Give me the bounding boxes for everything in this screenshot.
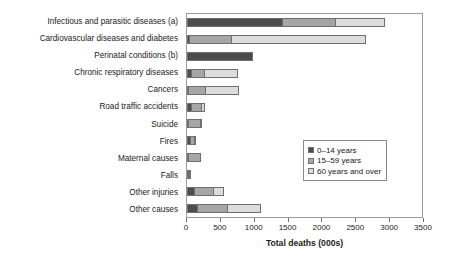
bar-segment[interactable] bbox=[204, 69, 238, 78]
bar-segment[interactable] bbox=[231, 35, 366, 44]
bar-segment[interactable] bbox=[200, 119, 202, 128]
stacked-bar[interactable] bbox=[187, 153, 201, 162]
category-label: Cardiovascular diseases and diabetes bbox=[40, 34, 178, 43]
stacked-bar[interactable] bbox=[187, 52, 253, 61]
bar-segment[interactable] bbox=[201, 103, 204, 112]
legend-item[interactable]: 15–59 years bbox=[308, 156, 381, 165]
category-label: Fires bbox=[160, 137, 178, 146]
stacked-bar[interactable] bbox=[187, 170, 191, 179]
bar-segment[interactable] bbox=[191, 69, 204, 78]
x-axis-tick bbox=[321, 218, 322, 222]
bar-row bbox=[187, 200, 422, 217]
bar-segment[interactable] bbox=[197, 204, 227, 213]
x-axis-tick bbox=[220, 218, 221, 222]
stacked-bar[interactable] bbox=[187, 69, 238, 78]
bar-segment[interactable] bbox=[335, 18, 384, 27]
bar-segment[interactable] bbox=[187, 18, 282, 27]
category-label: Infectious and parasitic diseases (a) bbox=[47, 17, 178, 26]
bar-row bbox=[187, 31, 422, 48]
category-label-row: Suicide bbox=[0, 115, 182, 132]
bar-segment[interactable] bbox=[227, 204, 262, 213]
stacked-bar[interactable] bbox=[187, 136, 196, 145]
stacked-bar[interactable] bbox=[187, 35, 366, 44]
x-axis-tick bbox=[423, 218, 424, 222]
legend-swatch-icon bbox=[308, 168, 314, 174]
category-axis-labels: Infectious and parasitic diseases (a)Car… bbox=[0, 13, 182, 218]
bar-row bbox=[187, 48, 422, 65]
stacked-bar[interactable] bbox=[187, 119, 202, 128]
category-label-row: Road traffic accidents bbox=[0, 98, 182, 115]
category-label: Road traffic accidents bbox=[99, 102, 178, 111]
legend-swatch-icon bbox=[308, 158, 314, 164]
category-label-row: Perinatal conditions (b) bbox=[0, 47, 182, 64]
stacked-bar[interactable] bbox=[187, 204, 261, 213]
category-label-row: Maternal causes bbox=[0, 150, 182, 167]
bar-segment[interactable] bbox=[191, 103, 201, 112]
legend-swatch-icon bbox=[308, 147, 314, 153]
x-axis-tick bbox=[288, 218, 289, 222]
x-axis-tick-label: 2500 bbox=[346, 223, 364, 232]
x-axis-tick bbox=[254, 218, 255, 222]
legend-label: 15–59 years bbox=[317, 156, 361, 165]
stacked-bar[interactable] bbox=[187, 86, 239, 95]
bar-segment[interactable] bbox=[189, 170, 191, 179]
category-label-row: Cardiovascular diseases and diabetes bbox=[0, 30, 182, 47]
x-axis-title: Total deaths (000s) bbox=[186, 238, 423, 248]
plot-area bbox=[186, 13, 423, 218]
bar-segment[interactable] bbox=[282, 18, 335, 27]
bar-row bbox=[187, 183, 422, 200]
bar-row bbox=[187, 99, 422, 116]
category-label-row: Falls bbox=[0, 167, 182, 184]
category-label: Other injuries bbox=[129, 188, 178, 197]
legend-item[interactable]: 0–14 years bbox=[308, 146, 381, 155]
stacked-bar[interactable] bbox=[187, 18, 385, 27]
bar-segment[interactable] bbox=[188, 119, 200, 128]
x-axis-tick-label: 0 bbox=[184, 223, 188, 232]
x-axis-tick-label: 1000 bbox=[245, 223, 263, 232]
category-label: Cancers bbox=[148, 85, 179, 94]
bars-container bbox=[187, 14, 422, 217]
stacked-bar-chart: Infectious and parasitic diseases (a)Car… bbox=[0, 0, 452, 265]
stacked-bar[interactable] bbox=[187, 187, 224, 196]
category-label: Perinatal conditions (b) bbox=[94, 51, 178, 60]
legend: 0–14 years15–59 years60 years and over bbox=[303, 140, 387, 181]
x-axis: 0500100015002000250030003500 bbox=[186, 218, 423, 219]
category-label-row: Cancers bbox=[0, 81, 182, 98]
legend-label: 60 years and over bbox=[317, 167, 381, 176]
x-axis-tick bbox=[355, 218, 356, 222]
legend-item[interactable]: 60 years and over bbox=[308, 167, 381, 176]
x-axis-tick-label: 3500 bbox=[414, 223, 432, 232]
bar-segment[interactable] bbox=[189, 35, 231, 44]
category-label: Chronic respiratory diseases bbox=[74, 68, 178, 77]
bar-segment[interactable] bbox=[213, 187, 225, 196]
category-label: Suicide bbox=[151, 120, 178, 129]
bar-segment[interactable] bbox=[194, 136, 196, 145]
bar-row bbox=[187, 116, 422, 133]
x-axis-tick-label: 500 bbox=[213, 223, 226, 232]
bar-segment[interactable] bbox=[188, 153, 201, 162]
x-axis-tick bbox=[186, 218, 187, 222]
legend-label: 0–14 years bbox=[317, 146, 357, 155]
category-label: Other causes bbox=[129, 205, 178, 214]
bar-row bbox=[187, 82, 422, 99]
category-label-row: Infectious and parasitic diseases (a) bbox=[0, 13, 182, 30]
x-axis-tick-label: 2000 bbox=[313, 223, 331, 232]
category-label-row: Chronic respiratory diseases bbox=[0, 64, 182, 81]
category-label: Maternal causes bbox=[118, 154, 178, 163]
category-label-row: Fires bbox=[0, 133, 182, 150]
bar-segment[interactable] bbox=[187, 52, 253, 61]
bar-segment[interactable] bbox=[187, 204, 197, 213]
bar-row bbox=[187, 14, 422, 31]
stacked-bar[interactable] bbox=[187, 103, 205, 112]
x-axis-tick-label: 3000 bbox=[380, 223, 398, 232]
bar-segment[interactable] bbox=[194, 187, 212, 196]
category-label-row: Other causes bbox=[0, 201, 182, 218]
category-label: Falls bbox=[161, 171, 178, 180]
bar-segment[interactable] bbox=[188, 86, 205, 95]
bar-segment[interactable] bbox=[187, 187, 194, 196]
bar-row bbox=[187, 65, 422, 82]
category-label-row: Other injuries bbox=[0, 184, 182, 201]
bar-segment[interactable] bbox=[205, 86, 239, 95]
x-axis-tick bbox=[389, 218, 390, 222]
x-axis-tick-label: 1500 bbox=[279, 223, 297, 232]
